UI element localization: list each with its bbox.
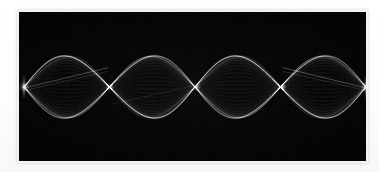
wave-plate <box>19 12 366 161</box>
figure-root <box>0 0 379 172</box>
plate-wrapper <box>19 12 366 161</box>
standing-wave-canvas <box>19 12 366 161</box>
